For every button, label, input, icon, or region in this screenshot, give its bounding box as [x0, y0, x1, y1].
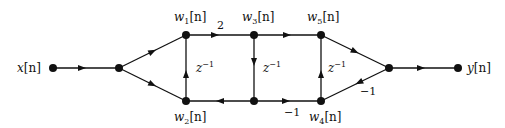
arrow-down-right-icon [148, 80, 158, 89]
label-y: y[n] [466, 61, 491, 75]
node-w5 [317, 31, 325, 39]
arrow-left-icon [216, 98, 224, 104]
label-w3: w3[n] [242, 10, 274, 26]
delay-w2-w1: z−1 [195, 60, 214, 75]
delay-w4-w5: z−1 [327, 60, 346, 75]
arrow-right-icon [211, 32, 219, 38]
arrow-up-icon [318, 70, 324, 78]
arrow-right-icon [417, 65, 425, 71]
label-w2: w2[n] [174, 110, 206, 126]
arrow-right-icon [78, 65, 86, 71]
node-split [115, 64, 123, 72]
node-y [454, 64, 462, 72]
node-sum [385, 64, 393, 72]
label-w1: w1[n] [174, 10, 206, 26]
node-w3 [250, 31, 258, 39]
gain-w4-sum: −1 [360, 85, 376, 98]
node-w4 [317, 97, 325, 105]
gain-w1-w3: 2 [217, 19, 224, 32]
node-w1 [182, 31, 190, 39]
arrow-down-right-icon [350, 47, 360, 56]
label-w4: w4[n] [309, 110, 341, 126]
arrow-up-right-icon [148, 47, 158, 56]
node-b3 [250, 97, 258, 105]
signal-flow-graph: x[n] y[n] w1[n] w3[n] w5[n] w2[n] w4[n] … [0, 0, 505, 128]
arrow-right-icon [282, 98, 290, 104]
arrow-down-icon [251, 58, 257, 66]
gain-b3-w4: −1 [284, 106, 300, 119]
delay-w3-b3: z−1 [262, 60, 281, 75]
arrow-up-icon [183, 70, 189, 78]
arrow-right-icon [283, 32, 291, 38]
node-x [49, 64, 57, 72]
node-w2 [182, 97, 190, 105]
label-x: x[n] [17, 61, 41, 75]
label-w5: w5[n] [307, 10, 339, 26]
